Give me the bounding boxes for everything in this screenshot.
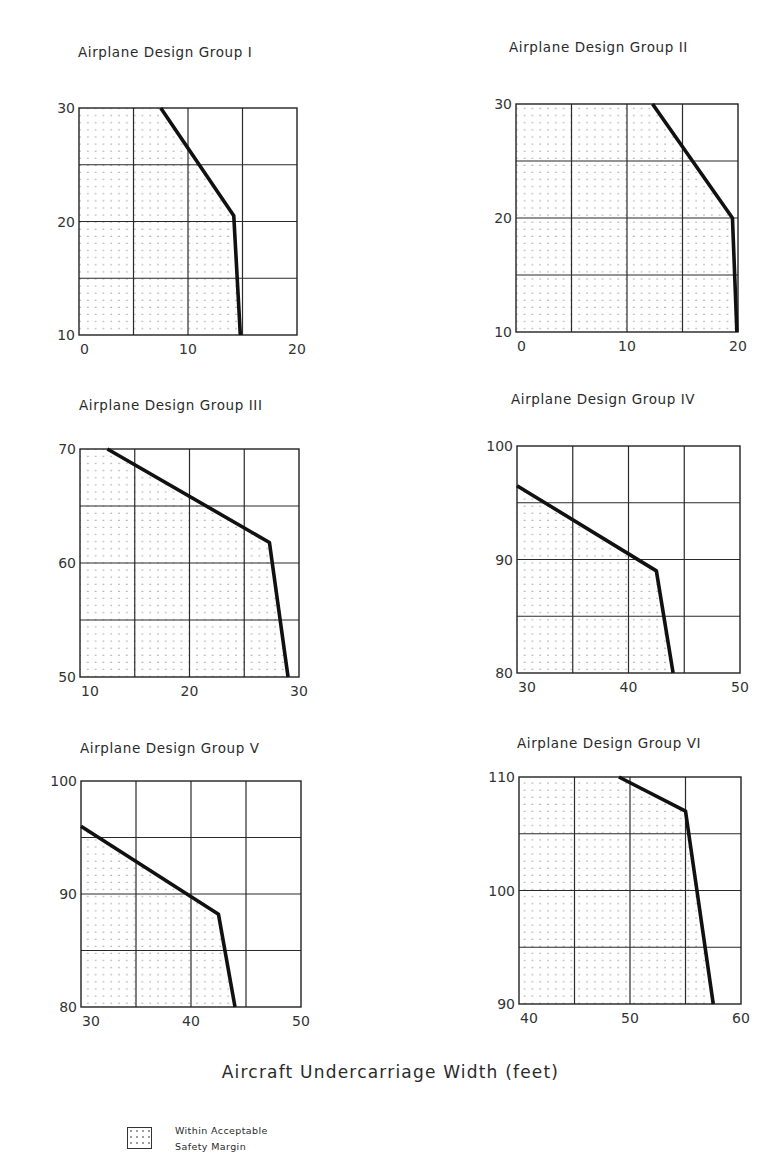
x-tick-label: 60 <box>732 1010 750 1026</box>
x-tick-label: 0 <box>517 338 526 354</box>
x-axis-label: Aircraft Undercarriage Width (feet) <box>0 1062 781 1082</box>
x-tick-label: 20 <box>729 338 747 354</box>
legend: Within Acceptable Safety Margin <box>127 1123 268 1155</box>
chart-grid: Airplane Design Group I10203001020Airpla… <box>50 39 750 1029</box>
safe-region <box>81 826 235 1007</box>
x-tick-label: 40 <box>620 679 638 695</box>
legend-swatch-stipple <box>127 1127 152 1149</box>
y-tick-label: 10 <box>57 327 75 343</box>
x-tick-label: 50 <box>731 679 749 695</box>
y-tick-label: 90 <box>59 886 77 902</box>
x-tick-label: 0 <box>80 341 89 357</box>
chart-panel-6: Airplane Design Group VI90100110405060 <box>488 735 750 1026</box>
x-tick-label: 40 <box>182 1013 200 1029</box>
y-tick-label: 60 <box>58 555 76 571</box>
y-tick-label: 90 <box>497 996 515 1012</box>
y-tick-label: 100 <box>486 438 513 454</box>
y-tick-label: 90 <box>495 552 513 568</box>
chart-title: Airplane Design Group V <box>80 740 260 756</box>
y-tick-label: 110 <box>488 769 515 785</box>
y-tick-label: 30 <box>494 96 512 112</box>
y-tick-label: 50 <box>58 669 76 685</box>
y-tick-label: 10 <box>494 324 512 340</box>
x-tick-label: 50 <box>292 1013 310 1029</box>
x-tick-label: 30 <box>82 1013 100 1029</box>
x-tick-label: 10 <box>179 341 197 357</box>
x-tick-label: 10 <box>81 683 99 699</box>
y-tick-label: 100 <box>488 883 515 899</box>
chart-panel-4: Airplane Design Group IV8090100304050 <box>486 391 749 695</box>
chart-title: Airplane Design Group III <box>79 397 263 413</box>
y-tick-label: 20 <box>494 210 512 226</box>
safe-region <box>517 486 673 673</box>
chart-panel-2: Airplane Design Group II10203001020 <box>494 39 747 354</box>
chart-panel-5: Airplane Design Group V8090100304050 <box>50 740 310 1029</box>
chart-title: Airplane Design Group I <box>78 44 252 60</box>
charts-canvas: Airplane Design Group I10203001020Airpla… <box>0 0 781 1175</box>
x-tick-label: 20 <box>288 341 306 357</box>
y-tick-label: 30 <box>57 100 75 116</box>
x-tick-label: 50 <box>621 1010 639 1026</box>
x-tick-label: 30 <box>518 679 536 695</box>
chart-panel-3: Airplane Design Group III506070102030 <box>58 397 308 699</box>
y-tick-label: 80 <box>59 999 77 1015</box>
x-tick-label: 20 <box>181 683 199 699</box>
y-tick-label: 20 <box>57 214 75 230</box>
y-tick-label: 100 <box>50 773 77 789</box>
legend-label-line1: Within Acceptable <box>175 1123 268 1139</box>
y-tick-label: 70 <box>58 441 76 457</box>
x-tick-label: 10 <box>618 338 636 354</box>
y-tick-label: 80 <box>495 665 513 681</box>
legend-label: Within Acceptable Safety Margin <box>175 1123 268 1155</box>
x-tick-label: 30 <box>290 683 308 699</box>
x-tick-label: 40 <box>520 1010 538 1026</box>
legend-label-line2: Safety Margin <box>175 1139 268 1155</box>
chart-title: Airplane Design Group IV <box>511 391 695 407</box>
chart-title: Airplane Design Group VI <box>517 735 701 751</box>
chart-panel-1: Airplane Design Group I10203001020 <box>57 44 306 357</box>
chart-title: Airplane Design Group II <box>509 39 688 55</box>
